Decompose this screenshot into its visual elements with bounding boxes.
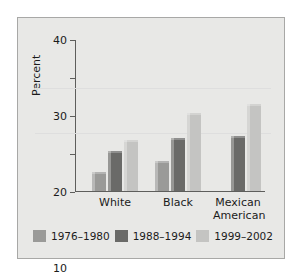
bar-highlight-edge: [124, 140, 127, 191]
y-axis-tick-label: 40: [53, 35, 67, 46]
y-axis-tick-label: 20: [53, 187, 67, 198]
bar-face: [124, 140, 138, 191]
bar: [187, 113, 201, 191]
bar: [108, 151, 122, 191]
bar-highlight-edge: [108, 151, 111, 191]
bar-highlight-edge: [171, 138, 174, 191]
chart-figure: Percent 403020100 WhiteBlackMexican Amer…: [17, 17, 285, 259]
bar-face: [187, 113, 201, 191]
bar-top-cap: [108, 151, 122, 153]
bar-face: [108, 151, 122, 191]
bar-top-cap: [247, 104, 261, 106]
y-axis-title: Percent: [31, 55, 42, 96]
x-axis-category-label: White: [90, 197, 140, 210]
bar-face: [155, 161, 169, 191]
bar-highlight-edge: [155, 161, 158, 191]
legend-swatch: [115, 230, 128, 242]
legend-item: 1976–1980: [33, 230, 110, 242]
y-axis-tick: 20: [70, 116, 75, 117]
y-axis-tick-label: 30: [53, 111, 67, 122]
bar-highlight-edge: [187, 113, 190, 191]
bar-top-cap: [231, 136, 245, 138]
bar-top-cap: [124, 140, 138, 142]
legend-swatch: [196, 230, 209, 242]
bar-highlight-edge: [231, 136, 234, 191]
bar-top-cap: [155, 161, 169, 163]
chart-legend: 1976–19801988–19941999–2002: [33, 230, 273, 242]
bar-face: [231, 136, 245, 191]
bar-highlight-edge: [92, 172, 95, 191]
legend-label: 1999–2002: [214, 231, 273, 242]
bar-top-cap: [92, 172, 106, 174]
x-axis-category-label: Mexican American: [213, 197, 263, 222]
legend-item: 1999–2002: [196, 230, 273, 242]
plot-area: Percent 403020100 WhiteBlackMexican Amer…: [75, 40, 265, 192]
y-axis-tick: 30: [70, 78, 75, 79]
bar: [231, 136, 245, 191]
bar-group: [153, 39, 203, 191]
bar-face: [247, 104, 261, 191]
x-axis-category-label: Black: [153, 197, 203, 210]
bar-face: [92, 172, 106, 191]
legend-item: 1988–1994: [115, 230, 192, 242]
y-axis-tick-label: 10: [53, 263, 67, 274]
bar: [171, 138, 185, 191]
bar: [92, 172, 106, 191]
bar-highlight-edge: [247, 104, 250, 191]
legend-swatch: [33, 230, 46, 242]
bar: [247, 104, 261, 191]
y-axis-tick: 40: [70, 40, 75, 41]
legend-label: 1976–1980: [51, 231, 110, 242]
y-axis-line: [75, 40, 76, 192]
bar: [155, 161, 169, 191]
y-axis-tick: 0: [70, 192, 75, 193]
bar: [124, 140, 138, 191]
bar-group: [213, 39, 263, 191]
bar-top-cap: [171, 138, 185, 140]
x-axis-line: [75, 191, 265, 192]
legend-label: 1988–1994: [133, 231, 192, 242]
bar-top-cap: [187, 113, 201, 115]
y-axis-tick: 10: [70, 154, 75, 155]
bar-face: [171, 138, 185, 191]
bar-group: [90, 39, 140, 191]
